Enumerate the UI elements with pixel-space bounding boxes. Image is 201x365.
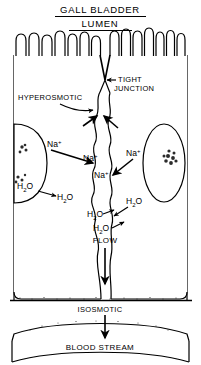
sodium-label-center-lower: Na+ xyxy=(94,170,109,181)
flow-label: FLOW xyxy=(93,236,118,245)
tight-junction-apical-v xyxy=(100,55,110,80)
isosmotic-label: ISOSMOTIC xyxy=(78,305,123,314)
epithelial-cell-left xyxy=(14,55,101,299)
capillary-upper-wall xyxy=(12,324,189,342)
figure-canvas: GALL BLADDER LUMEN xyxy=(0,0,201,365)
microvilli-left xyxy=(16,31,101,56)
hyperosmotic-label: HYPEROSMOTIC xyxy=(18,93,83,102)
gall-bladder-epithelium-figure: GALL BLADDER LUMEN xyxy=(0,0,201,365)
figure-title-line-2: LUMEN xyxy=(82,18,119,29)
tight-junction-label-line-2: JUNCTION xyxy=(114,84,154,93)
blood-stream-label: BLOOD STREAM xyxy=(66,343,134,352)
tight-junction-structure xyxy=(100,55,110,93)
tight-junction-lower-v xyxy=(100,80,110,93)
figure-title-line-1: GALL BLADDER xyxy=(60,4,140,15)
blood-capillary xyxy=(12,321,189,363)
tight-junction-label-line-1: TIGHT xyxy=(118,75,142,84)
microvilli-right xyxy=(110,28,185,56)
water-label-flow-upper: H2O xyxy=(93,223,109,235)
capillary-lower-wall xyxy=(12,352,189,362)
